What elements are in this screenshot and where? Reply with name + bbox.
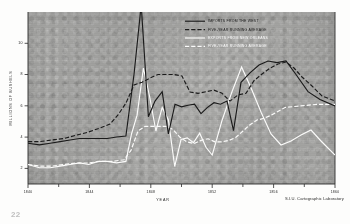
chart-figure: 2 4 6 8 10 1840 1844 1848 1852 1856 1860 xyxy=(0,0,350,224)
x-axis-title: YEAR xyxy=(156,198,170,202)
x-tick-label: 1848 xyxy=(147,190,156,194)
chart-legend: IMPORTS FROM THE WEST FIVE-YEAR RUNNING … xyxy=(185,19,269,48)
y-tick-label: 8 xyxy=(20,72,22,76)
x-tick-label: 1856 xyxy=(269,190,278,194)
axes xyxy=(28,12,335,184)
x-tick-label: 1852 xyxy=(208,190,217,194)
series-imports-from-the-west xyxy=(28,5,335,145)
x-tick-label: 1860 xyxy=(331,190,340,194)
chart-canvas: 2 4 6 8 10 1840 1844 1848 1852 1856 1860 xyxy=(0,0,350,224)
series-exports-five-year-average xyxy=(28,104,335,166)
credit-line: S.I.U. Cartographic Laboratory xyxy=(285,196,344,201)
x-tick-label: 1844 xyxy=(85,190,94,194)
y-tick-label: 4 xyxy=(20,135,22,139)
legend-label-imports-from-the-west: IMPORTS FROM THE WEST xyxy=(208,19,259,23)
y-ticks: 2 4 6 8 10 xyxy=(18,41,28,170)
y-axis-title: MILLIONS OF BUSHELS xyxy=(9,71,13,126)
series-group xyxy=(28,5,335,168)
series-exports-from-new-orleans xyxy=(28,67,335,168)
series-imports-five-year-average xyxy=(28,62,335,142)
y-tick-label: 10 xyxy=(18,41,22,45)
x-ticks: 1840 1844 1848 1852 1856 1860 xyxy=(24,184,340,194)
x-tick-label: 1840 xyxy=(24,190,33,194)
y-tick-label: 2 xyxy=(20,166,22,170)
legend-label-exports-from-new-orleans: EXPORTS FROM NEW ORLEANS xyxy=(208,36,269,40)
y-tick-label: 6 xyxy=(20,104,22,108)
page-number: 22 xyxy=(11,210,21,219)
legend-label-exports-five-year-average: FIVE-YEAR RUNNING AVERAGE xyxy=(208,44,267,48)
legend-label-imports-five-year-average: FIVE-YEAR RUNNING AVERAGE xyxy=(208,28,267,32)
